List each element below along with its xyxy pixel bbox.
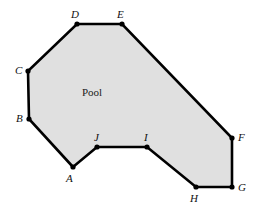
polygon-canvas: [0, 0, 260, 209]
vertex-label-b: B: [16, 113, 23, 124]
vertex-dot-g: [229, 184, 234, 189]
pool-polygon-figure: ABCDEFGHIJ Pool: [0, 0, 260, 209]
vertex-label-j: J: [94, 132, 99, 143]
vertex-dot-d: [74, 21, 79, 26]
vertex-label-g: G: [238, 182, 246, 193]
vertex-dot-f: [229, 135, 234, 140]
vertex-label-h: H: [190, 193, 198, 204]
vertex-label-e: E: [117, 9, 124, 20]
pool-region-label: Pool: [82, 87, 102, 98]
vertex-dot-h: [193, 184, 198, 189]
pool-polygon-outline: [28, 24, 232, 187]
vertex-dot-a: [70, 164, 75, 169]
vertex-label-i: I: [144, 132, 148, 143]
vertex-label-c: C: [15, 65, 22, 76]
vertex-label-d: D: [71, 9, 79, 20]
vertex-dot-b: [26, 116, 31, 121]
vertex-label-f: F: [238, 132, 245, 143]
vertex-label-a: A: [66, 173, 73, 184]
vertex-dot-c: [25, 68, 30, 73]
vertex-dot-e: [119, 21, 124, 26]
vertex-dot-j: [94, 144, 99, 149]
vertex-dot-i: [144, 144, 149, 149]
